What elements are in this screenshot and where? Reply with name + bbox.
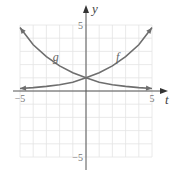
chart: −555−5 t y fg [0, 0, 182, 173]
curve-f-arrow-start-icon [20, 85, 26, 90]
x-tick-label: 5 [150, 93, 155, 104]
x-axis-label: t [165, 92, 169, 107]
y-axis-label: y [90, 1, 98, 16]
curve-g-arrow-end-icon [146, 85, 152, 90]
curve-label-g: g [53, 50, 59, 64]
x-tick-label: −5 [15, 93, 26, 104]
y-tick-label: 5 [78, 20, 83, 31]
y-tick-label: −5 [72, 152, 83, 163]
y-axis-arrow-icon [83, 5, 89, 13]
